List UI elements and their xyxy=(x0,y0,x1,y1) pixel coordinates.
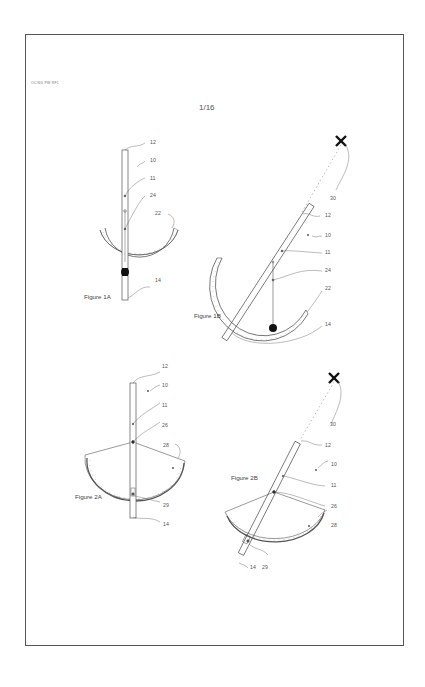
figure-caption: Figure 1A xyxy=(84,293,112,300)
label-12: 12 xyxy=(150,139,156,145)
label-11: 11 xyxy=(162,402,167,408)
label-12: 12 xyxy=(325,212,331,218)
label-10: 10 xyxy=(162,382,168,388)
label-14: 14 xyxy=(155,277,161,283)
label-11: 11 xyxy=(325,249,330,255)
label-10: 10 xyxy=(150,157,156,163)
figure-caption: Figure 2B xyxy=(231,474,258,481)
label-26: 26 xyxy=(162,422,168,428)
target-x-icon xyxy=(336,136,346,146)
label-10: 10 xyxy=(331,461,337,467)
arc-scale xyxy=(215,258,306,336)
rod xyxy=(222,203,314,340)
figure-1a xyxy=(100,143,178,300)
label-29: 29 xyxy=(163,502,169,508)
label-14: 14 xyxy=(325,321,331,327)
label-12: 12 xyxy=(162,363,168,369)
label-30: 30 xyxy=(330,195,336,201)
figure-2b xyxy=(225,373,341,568)
label-10: 10 xyxy=(325,232,331,238)
label-24: 24 xyxy=(325,267,331,273)
target-x-icon xyxy=(329,373,339,383)
figure-1b xyxy=(210,136,349,343)
arc-scale xyxy=(105,228,174,257)
label-26: 26 xyxy=(331,503,337,509)
label-22: 22 xyxy=(325,285,331,291)
label-14: 14 xyxy=(250,564,256,570)
label-28: 28 xyxy=(331,522,337,528)
figure-caption: Figure 1B xyxy=(194,312,221,319)
label-11: 11 xyxy=(331,482,336,488)
label-14: 14 xyxy=(163,521,169,527)
patent-drawings: 12 10 11 24 22 14 Figure 1A xyxy=(0,0,425,687)
rod xyxy=(130,383,136,518)
label-28: 28 xyxy=(163,442,169,448)
label-29: 29 xyxy=(262,564,268,570)
label-24: 24 xyxy=(150,192,156,198)
figure-caption: Figure 2A xyxy=(75,493,103,500)
label-12: 12 xyxy=(325,442,331,448)
label-11: 11 xyxy=(150,175,155,181)
pendulum-weight xyxy=(269,324,277,332)
label-30: 30 xyxy=(330,421,336,427)
label-22: 22 xyxy=(155,210,161,216)
